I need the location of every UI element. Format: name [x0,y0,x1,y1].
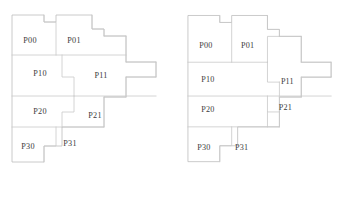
left-label-p30: P30 [21,142,34,151]
right-label-p30: P30 [197,143,210,152]
right-label-p21: P21 [279,103,292,112]
left-label-p01: P01 [67,36,80,45]
figure-container: P00P01P10P11P20P21P30P31 P00P01P10P11P20… [0,0,351,204]
right-diagram-svg: P00P01P10P11P20P21P30P31 [176,0,351,204]
right-label-p11: P11 [281,77,294,86]
left-label-p10: P10 [33,69,46,78]
left-label-p21: P21 [88,111,101,120]
left-label-p31: P31 [63,139,76,148]
left-label-p11: P11 [94,71,107,80]
right-label-p31: P31 [235,143,248,152]
right-label-p20: P20 [201,105,214,114]
right-label-p01: P01 [241,41,254,50]
left-partitioning-diagram: P00P01P10P11P20P21P30P31 [0,0,176,204]
left-label-p00: P00 [23,36,36,45]
right-label-p10: P10 [201,75,214,84]
right-label-p00: P00 [199,41,212,50]
left-diagram-svg: P00P01P10P11P20P21P30P31 [0,0,176,204]
right-partitioning-diagram: P00P01P10P11P20P21P30P31 [176,0,351,204]
right-domain-outline [188,15,331,161]
left-label-p20: P20 [33,107,46,116]
